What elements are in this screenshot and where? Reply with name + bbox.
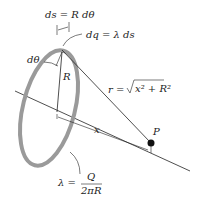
lambda-numerator: Q <box>87 171 95 182</box>
dq-leader <box>63 34 82 46</box>
r-label: r = <box>108 84 124 95</box>
radius-line <box>57 52 62 112</box>
ds-arrow <box>58 27 68 30</box>
point-p <box>148 140 155 147</box>
charged-ring <box>9 44 88 171</box>
x-label: x <box>94 124 100 135</box>
P-label: P <box>152 126 160 137</box>
lambda-denominator: 2πR <box>80 185 102 196</box>
dq-label: dq = λ ds <box>86 29 135 40</box>
r-line <box>62 50 150 142</box>
R-label: R <box>62 71 71 82</box>
axis-line <box>15 91 190 171</box>
lambda-label: λ = <box>57 177 76 188</box>
dtheta-label: dθ <box>27 54 39 65</box>
dtheta-leader <box>44 62 58 66</box>
ring-charge-diagram: ds = R dθ dq = λ ds dθ R r = x² + R² x P… <box>0 0 200 204</box>
ds-label: ds = R dθ <box>45 9 94 20</box>
x-dim-line <box>58 117 148 150</box>
lambda-leader <box>70 152 80 174</box>
r-radicand: x² + R² <box>135 83 171 94</box>
